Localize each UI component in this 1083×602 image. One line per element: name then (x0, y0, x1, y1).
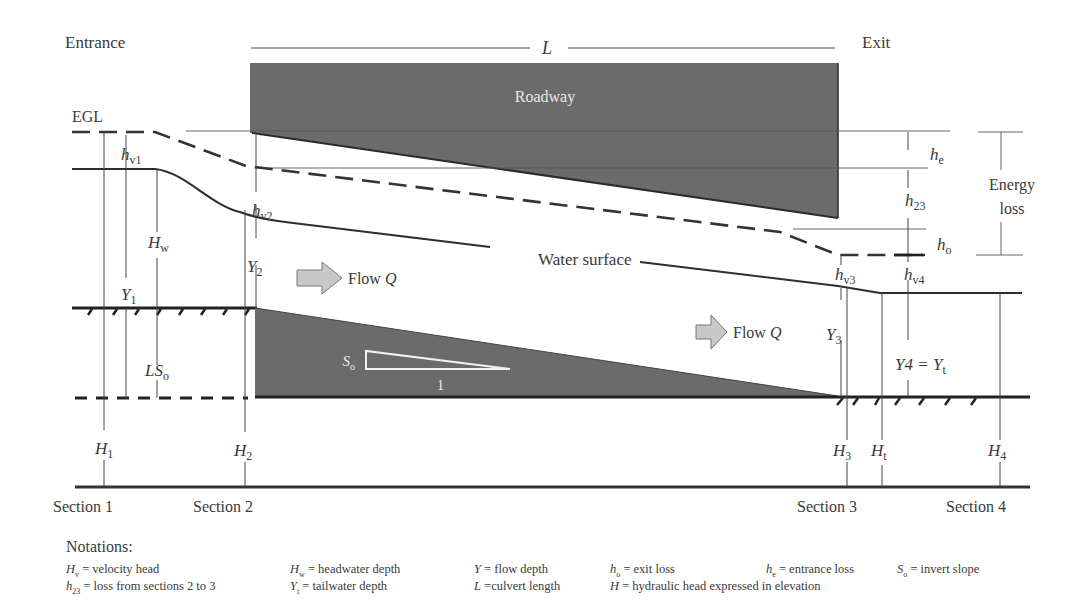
notations-legend: Notations: Hv = velocity head Hw = headw… (66, 538, 1076, 596)
y4-label: Y4 = Yt (895, 355, 946, 377)
energy-loss-bracket: Energy loss (976, 132, 1035, 255)
y3-label: Y3 (826, 325, 841, 347)
h3-label: H3 (832, 441, 851, 463)
notation-invert-slope: So = invert slope (897, 562, 979, 579)
lso-label: LSo (144, 361, 169, 383)
flow-label-lower: Flow Q (733, 324, 782, 341)
section-1-label: Section 1 (53, 498, 113, 515)
y2-label: Y2 (247, 257, 262, 279)
h1-label: H1 (94, 439, 113, 461)
hw-label: Hw (147, 233, 169, 255)
h2-label: H2 (233, 441, 252, 463)
notation-exit-loss: ho = exit loss (610, 562, 675, 579)
notation-velocity-head: Hv = velocity head (66, 562, 159, 579)
water-surface-line (72, 169, 1022, 293)
length-dimension: L (251, 38, 835, 58)
flow-arrow-upper: Flow Q (297, 262, 397, 294)
ho-label: ho (937, 235, 952, 257)
notation-entrance-loss: he = entrance loss (766, 562, 854, 579)
notations-row-2: h23 = loss from sections 2 to 3 Yt = tai… (66, 579, 1076, 596)
flow-arrow-lower: Flow Q (696, 315, 782, 349)
notation-loss-2-3: h23 = loss from sections 2 to 3 (66, 579, 215, 596)
egl-label: EGL (72, 108, 103, 125)
y1-label: Y1 (121, 285, 136, 307)
notations-row-1: Hv = velocity head Hw = headwater depth … (66, 562, 1076, 579)
he-label: he (930, 145, 944, 167)
water-surface-label: Water surface (538, 250, 631, 269)
notation-hydraulic-head: H = hydraulic head expressed in elevatio… (610, 579, 820, 596)
notation-culvert-length: L =culvert length (474, 579, 560, 596)
h23-label: h23 (905, 191, 926, 213)
notations-title: Notations: (66, 538, 1076, 556)
exit-label: Exit (862, 33, 891, 52)
culvert-hydraulics-diagram: Entrance Exit L Roadway Energy loss EGL … (0, 0, 1083, 602)
hv1-label: hv1 (121, 145, 142, 167)
hv4-label: hv4 (904, 265, 925, 287)
roadway: Roadway (250, 63, 838, 218)
hv3-label: hv3 (835, 265, 856, 287)
ht-label: Ht (870, 441, 887, 463)
hv2-label: hv2 (252, 201, 273, 223)
downstream-bed (255, 397, 1030, 405)
length-label: L (541, 38, 552, 58)
upstream-bed (72, 308, 257, 315)
slope-run-label: 1 (437, 378, 444, 393)
flow-label-upper: Flow Q (348, 270, 397, 287)
roadway-label: Roadway (515, 88, 575, 106)
section-3-label: Section 3 (797, 498, 857, 515)
notation-headwater-depth: Hw = headwater depth (290, 562, 400, 579)
energy-loss-label-2: loss (1000, 200, 1025, 217)
notation-flow-depth: Y = flow depth (474, 562, 548, 579)
entrance-label: Entrance (65, 33, 125, 52)
section-2-label: Section 2 (193, 498, 253, 515)
h4-label: H4 (987, 441, 1006, 463)
energy-loss-label-1: Energy (989, 176, 1035, 194)
section-4-label: Section 4 (946, 498, 1006, 515)
notation-tailwater-depth: Yt = tailwater depth (290, 579, 387, 596)
